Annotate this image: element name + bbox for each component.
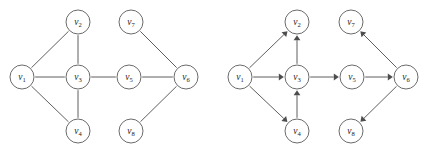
graph-node-right-graph-v5[interactable]: v5: [340, 65, 364, 89]
graph-node-right-graph-v4[interactable]: v4: [285, 119, 309, 143]
graph-edge-right-graph-v1-v4: [250, 86, 284, 118]
graph-node-left-graph-v6[interactable]: v6: [174, 65, 198, 89]
graph-node-right-graph-v7[interactable]: v7: [339, 10, 363, 34]
graph-edge-right-graph-v1-v2: [249, 35, 283, 68]
arrowhead-right-graph-v4-v3: [294, 90, 301, 95]
graph-node-left-graph-v5[interactable]: v5: [117, 65, 141, 89]
graph-node-right-graph-v8[interactable]: v8: [339, 119, 363, 143]
graph-figure: v1v2v3v4v5v6v7v8v1v2v3v4v5v6v7v8: [0, 0, 431, 154]
graph-edge-right-graph-v6-v8: [364, 86, 397, 118]
graph-edge-left-graph-v6-v8: [140, 86, 176, 122]
graph-edge-left-graph-v6-v7: [140, 31, 176, 67]
graph-node-left-graph-v8[interactable]: v8: [119, 119, 143, 143]
graph-canvas: v1v2v3v4v5v6v7v8v1v2v3v4v5v6v7v8: [0, 0, 431, 154]
graph-edge-right-graph-v6-v7: [364, 35, 397, 68]
arrowhead-right-graph-v5-v6: [388, 74, 393, 81]
arrowhead-right-graph-v1-v3: [279, 74, 284, 81]
graph-node-left-graph-v3[interactable]: v3: [66, 65, 90, 89]
graph-node-left-graph-v1[interactable]: v1: [10, 65, 34, 89]
graph-node-right-graph-v1[interactable]: v1: [228, 65, 252, 89]
arrowhead-right-graph-v3-v2: [294, 35, 301, 40]
graph-node-left-graph-v2[interactable]: v2: [66, 10, 90, 34]
graph-node-left-graph-v4[interactable]: v4: [66, 119, 90, 143]
graph-node-left-graph-v7[interactable]: v7: [119, 10, 143, 34]
arrowhead-right-graph-v3-v5: [334, 74, 339, 81]
nodes-layer: v1v2v3v4v5v6v7v8v1v2v3v4v5v6v7v8: [10, 10, 418, 143]
graph-edge-left-graph-v1-v4: [32, 86, 69, 122]
graph-edge-left-graph-v1-v2: [31, 31, 68, 68]
graph-node-right-graph-v3[interactable]: v3: [285, 65, 309, 89]
graph-node-right-graph-v6[interactable]: v6: [394, 65, 418, 89]
graph-node-right-graph-v2[interactable]: v2: [285, 10, 309, 34]
